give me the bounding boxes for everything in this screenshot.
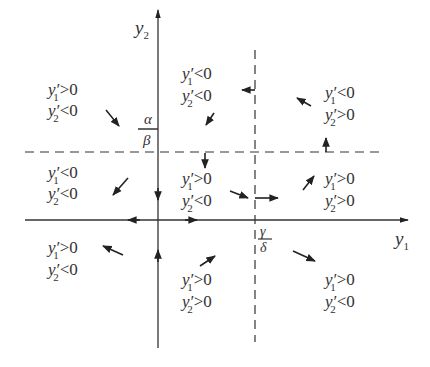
svg-text:δ: δ (260, 240, 267, 255)
region-label-middle-center: y′1>0 y′2<0 (180, 169, 212, 214)
arrow-down-right-icon (106, 110, 119, 126)
svg-text:y′2<0: y′2<0 (46, 260, 78, 283)
arrow-up-right-icon (200, 256, 215, 266)
svg-text:y′1<0: y′1<0 (323, 83, 355, 106)
arrow-up-left-icon (103, 246, 123, 255)
alpha-over-beta-label: α β (138, 111, 158, 148)
arrow-down-right-icon (230, 191, 248, 198)
svg-text:y′2<0: y′2<0 (323, 292, 355, 315)
region-label-middle-left: y′1<0 y′2<0 (46, 163, 78, 207)
svg-text:y′2<0: y′2<0 (180, 191, 212, 214)
svg-text:y′2<0: y′2<0 (46, 101, 78, 124)
y1-axis-label: y1 (393, 228, 409, 252)
svg-text:y′1>0: y′1>0 (180, 270, 212, 293)
region-label-middle-right: y′1>0 y′2>0 (323, 169, 355, 214)
svg-text:y′1>0: y′1>0 (323, 270, 355, 293)
region-label-upper-middle: y′1<0 y′2<0 (180, 64, 212, 109)
svg-text:y′1>0: y′1>0 (180, 169, 212, 192)
gamma-over-delta-label: γ δ (258, 224, 272, 255)
svg-text:y′2<0: y′2<0 (46, 184, 78, 207)
phase-plane-diagram: y2 y1 α β γ δ (0, 0, 430, 367)
arrow-up-left-icon (297, 98, 311, 106)
svg-text:β: β (142, 132, 151, 148)
svg-text:y′1>0: y′1>0 (46, 238, 78, 261)
region-label-upper-left: y′1>0 y′2<0 (46, 80, 78, 124)
svg-text:y′1<0: y′1<0 (180, 64, 212, 87)
svg-text:α: α (144, 111, 153, 127)
region-label-lower-middle: y′1>0 y′2>0 (180, 270, 212, 315)
region-label-lower-right: y′1>0 y′2<0 (323, 270, 355, 315)
svg-text:y′1<0: y′1<0 (46, 163, 78, 186)
svg-text:γ: γ (260, 224, 266, 239)
region-label-upper-right: y′1<0 y′2>0 (323, 83, 355, 128)
arrow-down-right-icon (293, 251, 315, 261)
arrow-down-left-icon (113, 178, 128, 195)
svg-text:y′2<0: y′2<0 (180, 86, 212, 109)
svg-text:y′2>0: y′2>0 (323, 105, 355, 128)
region-label-lower-left: y′1>0 y′2<0 (46, 238, 78, 283)
arrow-down-left-icon (206, 113, 214, 125)
svg-text:y′1>0: y′1>0 (46, 80, 78, 103)
svg-text:y′2>0: y′2>0 (180, 292, 212, 315)
svg-text:y′2>0: y′2>0 (323, 191, 355, 214)
y2-axis-label: y2 (133, 17, 149, 41)
svg-text:y′1>0: y′1>0 (323, 169, 355, 192)
arrow-up-right-icon (303, 176, 314, 190)
